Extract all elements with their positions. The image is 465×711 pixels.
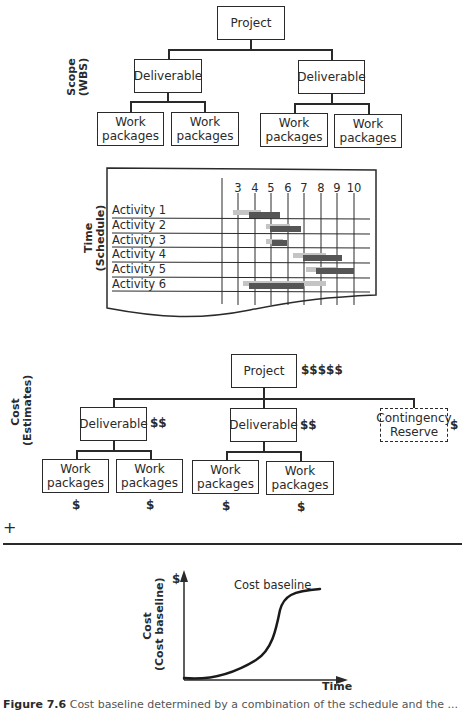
figure-caption: Figure 7.6 Cost baseline determined by a… [3, 698, 458, 711]
cost-baseline-curve [184, 589, 320, 678]
caption-text: Cost baseline determined by a combinatio… [70, 698, 458, 711]
caption-label: Figure 7.6 [3, 698, 66, 711]
